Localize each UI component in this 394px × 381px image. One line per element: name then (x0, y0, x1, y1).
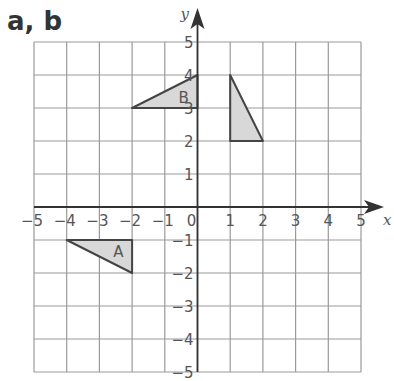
x-tick-label: 5 (356, 212, 366, 230)
x-axis-label: x (383, 211, 392, 229)
y-axis-label: y (180, 5, 190, 23)
x-tick-label: −4 (54, 212, 76, 230)
x-tick-label: 3 (291, 212, 301, 230)
x-tick-label: 2 (258, 212, 268, 230)
tick-labels: xy−5−4−3−2−101234554321−1−2−3−4−5 (21, 5, 392, 381)
y-tick-label: −2 (171, 265, 193, 283)
y-tick-label: −1 (171, 232, 193, 250)
x-tick-label: 1 (225, 212, 235, 230)
x-tick-label: −3 (86, 212, 108, 230)
axes (34, 8, 384, 372)
y-tick-label: 5 (184, 34, 194, 52)
y-tick-label: −3 (171, 298, 193, 316)
y-tick-label: 2 (184, 133, 194, 151)
y-tick-label: −4 (171, 331, 193, 349)
x-tick-label: 0 (187, 212, 197, 230)
x-tick-label: −5 (21, 212, 43, 230)
y-tick-label: 3 (184, 100, 194, 118)
y-tick-label: 1 (184, 166, 194, 184)
triangle-label: A (113, 243, 124, 261)
coordinate-grid: AB xy−5−4−3−2−101234554321−1−2−3−4−5 (0, 0, 394, 381)
x-tick-label: −2 (119, 212, 141, 230)
y-tick-label: −5 (171, 364, 193, 381)
y-tick-label: 4 (184, 67, 194, 85)
x-tick-label: −1 (152, 212, 174, 230)
x-tick-label: 4 (324, 212, 334, 230)
